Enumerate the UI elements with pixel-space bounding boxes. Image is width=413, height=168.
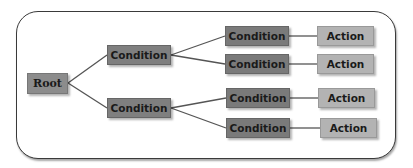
root-node: Root: [27, 73, 68, 94]
condition-label: Condition: [230, 122, 287, 134]
action-label: Action: [328, 92, 366, 104]
link-cond1-cond1b: [171, 55, 225, 64]
condition-label: Condition: [111, 102, 168, 114]
condition-node-1: Condition: [107, 45, 171, 65]
link-root-cond2: [68, 83, 107, 108]
condition-label: Condition: [229, 30, 286, 42]
action-node-2: Action: [317, 54, 374, 74]
condition-node-1a: Condition: [225, 26, 289, 46]
link-cond2-cond2a: [171, 98, 226, 108]
action-node-1: Action: [317, 26, 374, 46]
action-node-4: Action: [320, 118, 377, 138]
action-label: Action: [327, 58, 365, 70]
condition-node-2a: Condition: [226, 88, 290, 108]
link-cond2-cond2b: [171, 108, 226, 128]
root-label: Root: [33, 77, 62, 90]
action-label: Action: [327, 30, 365, 42]
condition-label: Condition: [230, 92, 287, 104]
condition-label: Condition: [111, 49, 168, 61]
condition-node-2: Condition: [107, 98, 171, 118]
action-node-3: Action: [318, 88, 375, 108]
action-label: Action: [330, 122, 368, 134]
condition-node-2b: Condition: [226, 118, 290, 138]
link-cond1-cond1a: [171, 36, 225, 55]
condition-node-1b: Condition: [225, 54, 289, 74]
condition-label: Condition: [229, 58, 286, 70]
link-root-cond1: [68, 55, 107, 83]
